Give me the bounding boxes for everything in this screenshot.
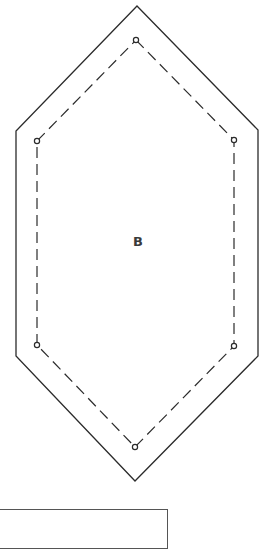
piece-label: B bbox=[128, 234, 148, 250]
corner-marker-top bbox=[133, 37, 138, 42]
corner-marker-upper-left bbox=[34, 138, 39, 143]
partial-box bbox=[0, 509, 168, 549]
corner-marker-lower-right bbox=[231, 343, 236, 348]
corner-marker-lower-left bbox=[34, 342, 39, 347]
corner-marker-bottom bbox=[132, 444, 137, 449]
corner-marker-upper-right bbox=[231, 137, 236, 142]
